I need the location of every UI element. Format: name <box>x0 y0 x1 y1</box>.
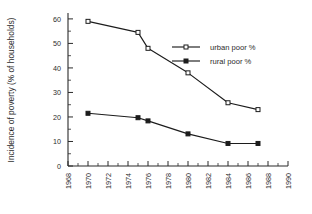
y-tick-label: 40 <box>53 64 61 73</box>
data-point-2-4 <box>186 132 190 136</box>
x-tick-label: 1982 <box>204 173 213 189</box>
y-tick-label: 20 <box>53 113 61 122</box>
x-tick-label: 1970 <box>84 173 93 189</box>
data-point-1-1 <box>86 19 90 23</box>
legend-swatch-marker-1 <box>184 45 188 49</box>
data-point-2-1 <box>86 111 90 115</box>
y-tick-label: 0 <box>57 162 61 171</box>
series-line-2 <box>88 113 258 143</box>
legend-swatch-marker-2 <box>184 59 188 63</box>
poverty-line-chart: 0102030405060196819701972197419761978198… <box>0 0 312 214</box>
y-tick-label: 30 <box>53 88 61 97</box>
x-tick-label: 1968 <box>64 173 73 189</box>
x-tick-label: 1984 <box>224 173 233 189</box>
x-tick-label: 1986 <box>244 173 253 189</box>
x-tick-label: 1972 <box>104 173 113 189</box>
x-tick-label: 1990 <box>284 173 293 189</box>
y-tick-label: 50 <box>53 39 61 48</box>
data-point-2-6 <box>256 141 260 145</box>
x-tick-label: 1988 <box>264 173 273 189</box>
data-point-1-3 <box>146 46 150 50</box>
data-point-1-2 <box>136 30 140 34</box>
y-axis-title: Incidence of poverty (% of households) <box>6 17 16 162</box>
data-point-2-5 <box>226 141 230 145</box>
data-point-1-5 <box>226 101 230 105</box>
data-point-1-4 <box>186 71 190 75</box>
x-tick-label: 1980 <box>184 173 193 189</box>
y-tick-label: 10 <box>53 137 61 146</box>
legend-label-1: urban poor % <box>210 43 256 52</box>
data-point-2-2 <box>136 116 140 120</box>
x-tick-label: 1974 <box>124 173 133 189</box>
x-tick-label: 1976 <box>144 173 153 189</box>
legend-label-2: rural poor % <box>210 57 252 66</box>
chart-canvas: 0102030405060196819701972197419761978198… <box>0 0 312 214</box>
y-tick-label: 60 <box>53 15 61 24</box>
x-tick-label: 1978 <box>164 173 173 189</box>
data-point-2-3 <box>146 119 150 123</box>
data-point-1-6 <box>256 108 260 112</box>
